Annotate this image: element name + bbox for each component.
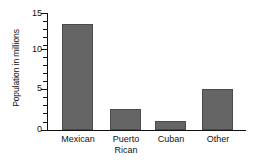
x-tick-label-other: Other	[192, 134, 244, 145]
x-tick-label-mexican: Mexican	[52, 134, 104, 145]
y-minor-tick-3	[43, 105, 47, 106]
y-minor-tick-12	[43, 37, 47, 38]
bar-puerto-rican[interactable]	[110, 109, 141, 130]
y-tick-label-10: 10	[22, 45, 42, 54]
y-minor-tick-7	[43, 73, 47, 74]
y-tick-label-5: 5	[22, 84, 42, 93]
y-major-tick-0	[41, 130, 47, 131]
y-major-tick-10	[41, 49, 47, 50]
y-minor-tick-6	[43, 81, 47, 82]
y-minor-tick-14	[43, 21, 47, 22]
y-minor-tick-4	[43, 97, 47, 98]
y-axis-title: Population in millions	[11, 8, 21, 128]
y-minor-tick-8	[43, 65, 47, 66]
bar-other[interactable]	[202, 89, 233, 130]
y-minor-tick-13	[43, 29, 47, 30]
y-minor-tick-9	[43, 57, 47, 58]
y-major-tick-5	[41, 89, 47, 90]
x-axis-line	[47, 130, 246, 131]
y-axis-line	[47, 13, 48, 131]
y-major-tick-15	[41, 13, 47, 14]
y-minor-tick-11	[43, 45, 47, 46]
x-tick-label-cuban: Cuban	[145, 134, 197, 145]
y-minor-tick-1	[43, 122, 47, 123]
bar-mexican[interactable]	[62, 24, 93, 130]
bar-cuban[interactable]	[155, 121, 186, 130]
bar-chart: Population in millions 15 10 5 0 Mexican…	[0, 0, 260, 167]
y-tick-label-15: 15	[22, 9, 42, 18]
y-minor-tick-2	[43, 113, 47, 114]
y-tick-label-0: 0	[22, 125, 42, 134]
